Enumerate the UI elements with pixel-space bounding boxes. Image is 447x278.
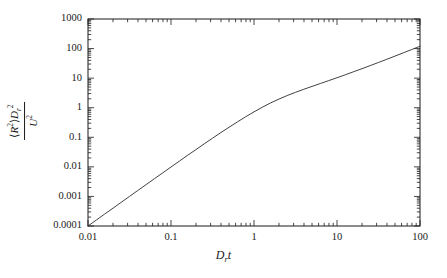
x-axis-title-main: D (216, 248, 225, 262)
y-axis-numerator: ⟨R2⟩Dr2 (7, 102, 23, 139)
y-axis-fraction: ⟨R2⟩Dr2 U2 (7, 102, 39, 139)
y-den-U: U (26, 119, 38, 127)
y-axis-title: ⟨R2⟩Dr2 U2 (7, 81, 39, 161)
y-tick-label: 100 (66, 42, 82, 53)
y-axis-denominator: U2 (26, 102, 39, 139)
chart-figure: 0.010.11101000.00010.0010.010.1110100100… (0, 0, 447, 278)
plot-area: 0.010.11101000.00010.0010.010.1110100100… (0, 0, 447, 278)
y-tick-label: 0.0001 (53, 219, 82, 230)
x-tick-label: 1 (251, 231, 256, 242)
y-num-D: D (8, 111, 20, 119)
x-axis-title-tail: t (228, 248, 231, 262)
axis-ticks (88, 19, 420, 226)
y-num-R: R (8, 127, 20, 134)
x-axis-title: Drt (0, 248, 447, 264)
x-tick-label: 100 (412, 231, 428, 242)
y-den-U-exp: 2 (25, 115, 34, 119)
y-num-D-sub: r (14, 108, 23, 111)
x-tick-label: 0.01 (79, 231, 97, 242)
fraction-bar (24, 102, 25, 139)
y-tick-label: 1000 (61, 12, 82, 23)
y-tick-label: 0.001 (58, 190, 82, 201)
axis-tick-labels: 0.010.11101000.00010.0010.010.1110100100… (53, 12, 428, 242)
plot-frame (88, 19, 420, 226)
x-tick-label: 0.1 (164, 231, 177, 242)
y-num-D-exp: 2 (6, 104, 15, 108)
y-tick-label: 10 (72, 72, 83, 83)
y-tick-label: 1 (77, 101, 82, 112)
y-tick-label: 0.01 (64, 160, 82, 171)
y-tick-label: 0.1 (69, 131, 82, 142)
x-tick-label: 10 (332, 231, 343, 242)
data-curve (88, 46, 420, 226)
y-num-R-exp: 2 (6, 123, 15, 127)
